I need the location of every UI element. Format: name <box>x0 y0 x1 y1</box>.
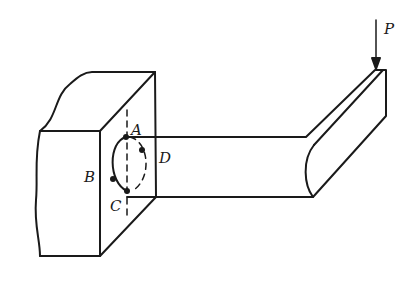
section-half-circle <box>113 137 127 191</box>
load-arrow <box>372 20 380 69</box>
bar-end-curve <box>306 145 314 197</box>
point-d-marker <box>139 147 145 153</box>
bent-bar <box>127 70 386 197</box>
bar-top-edge <box>127 70 386 197</box>
wall-block <box>36 72 156 256</box>
point-a-marker <box>123 134 129 140</box>
point-a-label: A <box>129 121 142 139</box>
point-c-marker <box>124 188 130 194</box>
wall-left-wavy-edge <box>36 131 40 256</box>
bar-inner-edge <box>314 70 383 145</box>
point-d-label: D <box>158 149 171 167</box>
point-b-label: B <box>83 168 95 186</box>
section-dashed-curve <box>130 137 146 191</box>
diagram-canvas: P A D B C <box>0 0 418 282</box>
point-c-label: C <box>110 197 122 215</box>
point-b-marker <box>110 176 116 182</box>
load-label: P <box>383 20 395 38</box>
wall-front-face <box>40 131 100 256</box>
